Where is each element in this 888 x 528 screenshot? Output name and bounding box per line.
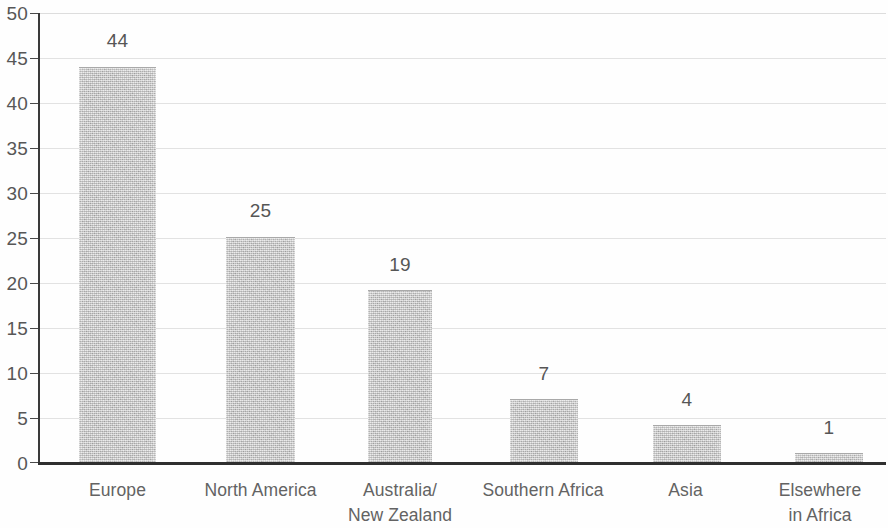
- y-tick-15: [30, 328, 38, 329]
- y-tick-40: [30, 103, 38, 104]
- y-tick-5: [30, 418, 38, 419]
- y-axis-label-40: 40: [0, 94, 28, 113]
- x-axis-label-asia: Asia: [617, 478, 754, 503]
- bar-value-label-asia: 4: [653, 390, 721, 409]
- bar-value-label-australia-nz: 19: [368, 255, 432, 274]
- bar-southern-africa[interactable]: [510, 399, 578, 463]
- x-axis-label-australia-nz-line1: Australia/: [331, 478, 469, 503]
- bar-value-label-europe: 44: [79, 31, 156, 50]
- y-axis-label-0: 0: [0, 454, 28, 473]
- x-axis-label-southern-africa-line1: Southern Africa: [474, 478, 612, 503]
- x-axis-label-australia-nz-line2: New Zealand: [331, 503, 469, 528]
- y-axis-label-15: 15: [0, 319, 28, 338]
- x-axis-label-elsewhere-africa: Elsewhere in Africa: [754, 478, 886, 528]
- bar-chart: 44 25 19 7 4 1 50 45 40 35 30 25 20 15 1…: [0, 0, 888, 528]
- y-tick-20: [30, 283, 38, 284]
- y-tick-50: [30, 13, 38, 14]
- x-axis-label-elsewhere-africa-line1: Elsewhere: [754, 478, 886, 503]
- y-axis-label-10: 10: [0, 364, 28, 383]
- bar-value-label-southern-africa: 7: [510, 364, 578, 383]
- x-axis-label-north-america-line1: North America: [191, 478, 330, 503]
- x-axis-label-southern-africa: Southern Africa: [474, 478, 612, 503]
- y-axis-line: [38, 13, 40, 465]
- x-axis-label-elsewhere-africa-line2: in Africa: [754, 503, 886, 528]
- bar-north-america[interactable]: [226, 237, 295, 463]
- y-axis-label-50: 50: [0, 4, 28, 23]
- y-axis-label-35: 35: [0, 139, 28, 158]
- y-axis-labels: 50 45 40 35 30 25 20 15 10 5 0: [0, 0, 28, 470]
- x-axis-label-europe-line1: Europe: [49, 478, 186, 503]
- y-tick-25: [30, 238, 38, 239]
- y-tick-30: [30, 193, 38, 194]
- bar-europe[interactable]: [79, 67, 156, 463]
- y-tick-45: [30, 58, 38, 59]
- y-tick-10: [30, 373, 38, 374]
- y-axis-label-30: 30: [0, 184, 28, 203]
- bar-value-label-north-america: 25: [226, 201, 295, 220]
- bar-value-label-elsewhere-africa: 1: [795, 418, 863, 437]
- y-axis-label-25: 25: [0, 229, 28, 248]
- y-axis-label-20: 20: [0, 274, 28, 293]
- y-axis-label-45: 45: [0, 49, 28, 68]
- bar-asia[interactable]: [653, 425, 721, 463]
- x-axis-labels: Europe North America Australia/ New Zeal…: [39, 478, 886, 528]
- bar-australia-nz[interactable]: [368, 290, 432, 463]
- x-axis-label-asia-line1: Asia: [617, 478, 754, 503]
- x-axis-line: [38, 462, 886, 465]
- bars-layer: [39, 0, 886, 463]
- y-axis-label-5: 5: [0, 409, 28, 428]
- y-tick-35: [30, 148, 38, 149]
- x-axis-label-australia-nz: Australia/ New Zealand: [331, 478, 469, 528]
- y-tick-0: [30, 462, 38, 463]
- x-axis-label-north-america: North America: [191, 478, 330, 503]
- x-axis-label-europe: Europe: [49, 478, 186, 503]
